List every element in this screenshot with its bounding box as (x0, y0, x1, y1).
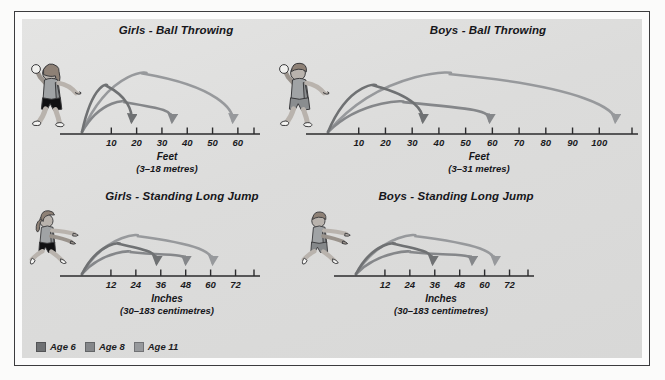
legend-label: Age 6 (50, 341, 76, 352)
chart-artwork (276, 190, 646, 340)
chart-title: Girls - Standing Long Jump (105, 190, 258, 202)
poster: Girls - Ball Throwing 102030405060Feet(3… (0, 0, 665, 380)
axis-caption: Inches(30–183 centimetres) (120, 293, 214, 317)
axis-conversion: (30–183 centimetres) (394, 305, 488, 317)
axis-tick-label: 60 (233, 137, 244, 148)
axis-caption: Feet(3–31 metres) (448, 151, 509, 175)
axis-tick-label: 20 (131, 137, 142, 148)
axis-tick-label: 48 (180, 279, 191, 290)
axis-tick-label: 36 (155, 279, 166, 290)
axis-tick-label: 50 (207, 137, 218, 148)
axis-tick-label: 30 (157, 137, 168, 148)
axis-tick-label: 60 (479, 279, 490, 290)
axis-tick-label: 10 (106, 137, 117, 148)
axis-tick-label: 12 (106, 279, 117, 290)
axis-conversion: (30–183 centimetres) (120, 305, 214, 317)
trajectory-arc (328, 101, 490, 132)
chart-boys-ball-throwing: Boys - Ball Throwing 1020304050607080901… (276, 24, 646, 174)
axis-tick-label: 10 (353, 137, 364, 148)
axis-tick-label: 80 (541, 137, 552, 148)
axis-tick-label: 90 (567, 137, 578, 148)
axis-tick-label: 60 (487, 137, 498, 148)
legend-swatch (85, 342, 95, 352)
trajectory-arc (82, 72, 233, 132)
chart-title: Boys - Standing Long Jump (378, 190, 533, 202)
axis-tick-label: 12 (380, 279, 391, 290)
legend-item: Age 11 (134, 341, 178, 352)
axis-tick-label: 24 (131, 279, 142, 290)
legend-swatch (134, 342, 144, 352)
legend-swatch (36, 342, 46, 352)
axis-conversion: (3–31 metres) (448, 163, 509, 175)
chart-title: Girls - Ball Throwing (119, 24, 234, 36)
axis-tick-label: 50 (460, 137, 471, 148)
trajectory-arc (82, 243, 157, 274)
axis-tick-label: 72 (504, 279, 515, 290)
axis-caption: Inches(30–183 centimetres) (394, 293, 488, 317)
legend-item: Age 8 (85, 341, 125, 352)
axis-tick-label: 60 (205, 279, 216, 290)
axis-conversion: (3–18 metres) (136, 163, 197, 175)
chart-title: Boys - Ball Throwing (430, 24, 546, 36)
axis-tick-label: 72 (230, 279, 241, 290)
legend-label: Age 11 (148, 341, 178, 352)
axis-unit: Inches (120, 293, 214, 305)
legend-item: Age 6 (36, 341, 76, 352)
axis-unit: Feet (448, 151, 509, 163)
axis-unit: Feet (136, 151, 197, 163)
figure-boy-jumping (302, 212, 350, 264)
axis-tick-label: 20 (380, 137, 391, 148)
trajectory-arc (328, 72, 615, 132)
axis-tick-label: 24 (405, 279, 416, 290)
axis-tick-label: 40 (182, 137, 193, 148)
figure-girl-throwing (32, 64, 81, 127)
legend-label: Age 8 (99, 341, 125, 352)
figure-girl-jumping (30, 211, 78, 264)
axis-tick-label: 30 (407, 137, 418, 148)
trajectory-arc (356, 243, 433, 274)
axis-unit: Inches (394, 293, 488, 305)
age-legend: Age 6Age 8Age 11 (36, 341, 178, 352)
figure-boy-throwing (280, 63, 329, 126)
axis-tick-label: 100 (591, 137, 607, 148)
trajectory-arc (356, 251, 472, 274)
chart-boys-standing-long-jump: Boys - Standing Long Jump 122436486072In… (276, 190, 646, 340)
axis-tick-label: 48 (454, 279, 465, 290)
axis-tick-label: 40 (434, 137, 445, 148)
axis-tick-label: 70 (514, 137, 525, 148)
axis-tick-label: 36 (429, 279, 440, 290)
axis-caption: Feet(3–18 metres) (136, 151, 197, 175)
